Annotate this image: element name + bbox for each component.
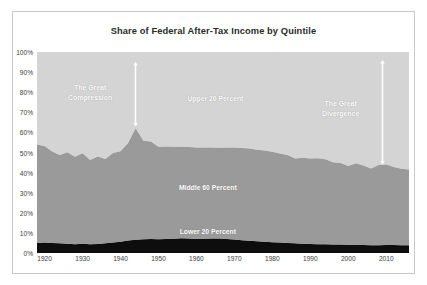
y-axis-tick-label: 20%	[6, 209, 33, 216]
upper-band-label: Upper 20 Percent	[187, 95, 243, 102]
y-axis-tick-label: 40%	[6, 169, 33, 176]
y-axis-tick-label: 50%	[6, 149, 33, 156]
x-axis-tick-label: 1940	[113, 255, 128, 262]
chart-page: Share of Federal After-Tax Income by Qui…	[0, 0, 427, 285]
x-axis-tick-label: 1930	[75, 255, 90, 262]
x-axis: 1920193019401950196019701980199020002010	[37, 255, 409, 269]
x-axis-tick-label: 1950	[151, 255, 166, 262]
x-axis-tick-label: 2000	[341, 255, 356, 262]
x-axis-tick-label: 1970	[227, 255, 242, 262]
middle-band-label: Middle 60 Percent	[179, 183, 237, 190]
y-axis-tick-label: 80%	[6, 89, 33, 96]
great-compression-label: The Great Compression	[68, 83, 112, 102]
great-compression-arrow-icon	[131, 62, 140, 126]
great-divergence-arrow-icon	[378, 60, 387, 165]
y-axis-tick-label: 10%	[6, 229, 33, 236]
x-axis-tick-label: 2010	[379, 255, 394, 262]
x-axis-tick-label: 1960	[189, 255, 204, 262]
y-axis: 0%10%20%30%40%50%60%70%80%90%100%	[8, 52, 35, 253]
y-axis-tick-label: 70%	[6, 109, 33, 116]
great-divergence-label: The Great Divergence	[322, 99, 359, 118]
y-axis-tick-label: 90%	[6, 69, 33, 76]
lower-band-label: Lower 20 Percent	[180, 227, 236, 234]
x-axis-tick-label: 1990	[303, 255, 318, 262]
x-axis-tick-label: 1920	[37, 255, 52, 262]
y-axis-tick-label: 60%	[6, 129, 33, 136]
y-axis-tick-label: 0%	[6, 250, 33, 257]
x-axis-tick-label: 1980	[265, 255, 280, 262]
page-title: Share of Federal After-Tax Income by Qui…	[12, 26, 415, 36]
y-axis-tick-label: 100%	[6, 49, 33, 56]
y-axis-tick-label: 30%	[6, 189, 33, 196]
